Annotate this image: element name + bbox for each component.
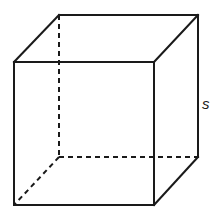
hidden-edge-bottom-left-diagonal — [14, 157, 59, 205]
edge-top-left-diagonal — [14, 15, 59, 62]
front-face — [14, 62, 154, 205]
side-length-label: s — [202, 95, 210, 112]
cube-diagram: s — [0, 0, 223, 216]
edge-bottom-right-diagonal — [154, 157, 198, 205]
edge-top-right-diagonal — [154, 15, 198, 62]
